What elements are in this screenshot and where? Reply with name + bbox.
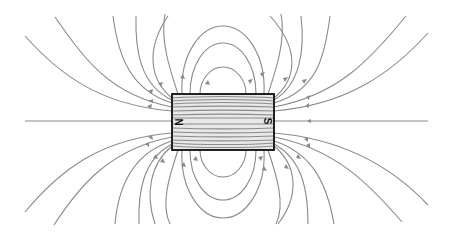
bar-magnet: N S	[172, 94, 274, 150]
south-pole-label: S	[262, 118, 273, 125]
north-pole-label: N	[173, 118, 184, 125]
magnetic-field-diagram: N S	[0, 0, 456, 234]
